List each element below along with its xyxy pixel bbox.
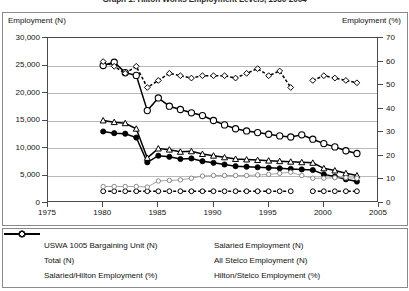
legend-label: USWA 1005 Bargaining Unit (N) <box>44 241 158 250</box>
y-tick-label-5000: 5,000 <box>0 170 40 179</box>
x-tick-label-1990: 1990 <box>193 208 233 217</box>
y2-tick-label-10: 10 <box>386 174 409 183</box>
legend-item[interactable]: All Stelco Employment (N) <box>204 253 406 268</box>
legend-label: All Stelco Employment (N) <box>214 256 307 265</box>
y-tick-label-15000: 15,000 <box>0 115 40 124</box>
chart-figure: Graph 1: Hilton Works Employment Levels,… <box>0 0 409 291</box>
y2-tick-label-50: 50 <box>386 80 409 89</box>
x-tick-label-1995: 1995 <box>248 208 288 217</box>
y-tick-label-30000: 30,000 <box>0 33 40 42</box>
legend: USWA 1005 Bargaining Unit (N)Salaried Em… <box>2 228 406 286</box>
chart-title: Graph 1: Hilton Works Employment Levels,… <box>0 0 409 6</box>
y2-tick-label-40: 40 <box>386 104 409 113</box>
y-tick-label-10000: 10,000 <box>0 143 40 152</box>
y2-tick-label-0: 0 <box>386 198 409 207</box>
y2-tick-label-70: 70 <box>386 33 409 42</box>
legend-item[interactable]: Hilton/Stelco Employment (%) <box>204 268 406 283</box>
series-layer <box>48 38 379 203</box>
legend-label: Hilton/Stelco Employment (%) <box>214 271 320 280</box>
x-tick-label-2005: 2005 <box>358 208 398 217</box>
y2-tick-label-20: 20 <box>386 151 409 160</box>
x-tick-label-2000: 2000 <box>303 208 343 217</box>
legend-marker-open-diamond-icon <box>2 228 42 240</box>
y-tick-label-20000: 20,000 <box>0 88 40 97</box>
x-tick-label-1980: 1980 <box>82 208 122 217</box>
plot-area <box>47 37 378 202</box>
legend-item[interactable]: Total (N) <box>2 253 204 268</box>
y-tick-label-25000: 25,000 <box>0 60 40 69</box>
legend-item[interactable]: Salaried Employment (N) <box>204 238 406 253</box>
legend-label: Salaried Employment (N) <box>214 241 303 250</box>
legend-item[interactable]: Salaried/Hilton Employment (%) <box>2 268 204 283</box>
legend-label: Total (N) <box>44 256 74 265</box>
legend-label: Salaried/Hilton Employment (%) <box>44 271 157 280</box>
y2-tick-label-30: 30 <box>386 127 409 136</box>
y-tick-label-0: 0 <box>0 198 40 207</box>
y-axis-title-right: Employment (%) <box>342 16 401 25</box>
x-tick-label-1985: 1985 <box>137 208 177 217</box>
x-tick-label-1975: 1975 <box>27 208 67 217</box>
y2-tick-label-60: 60 <box>386 57 409 66</box>
y-axis-title-left: Employment (N) <box>8 16 66 25</box>
